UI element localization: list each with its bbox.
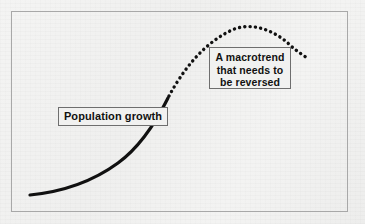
population-growth-callout: Population growth <box>58 107 168 126</box>
macrotrend-callout-line-2: that needs to <box>210 64 290 77</box>
macrotrend-callout: A macrotrend that needs to be reversed <box>209 47 291 89</box>
s-curve-chart <box>0 0 365 224</box>
macrotrend-callout-line-3: be reversed <box>210 76 290 89</box>
macrotrend-callout-line-1: A macrotrend <box>210 51 290 64</box>
figure-page: Population growth A macrotrend that need… <box>0 0 365 224</box>
population-growth-callout-text: Population growth <box>64 110 162 122</box>
